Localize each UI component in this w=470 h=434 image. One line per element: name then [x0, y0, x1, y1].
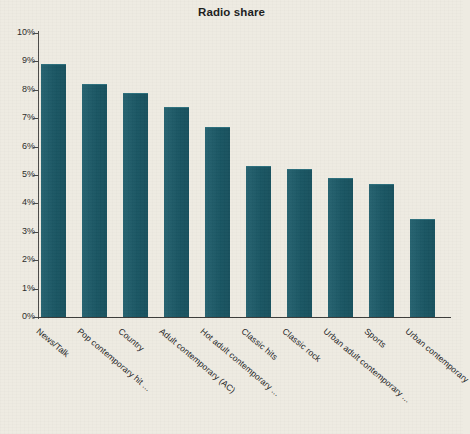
x-axis-category-label: Classic hits — [239, 326, 279, 362]
bar-shading — [328, 179, 353, 317]
bar — [328, 178, 353, 317]
y-axis-tick-label: 5% — [22, 169, 35, 179]
x-axis-line — [38, 317, 451, 318]
y-axis-tick-label: 7% — [22, 112, 35, 122]
bar-shading — [41, 65, 66, 317]
y-axis-tick-label: 0% — [22, 311, 35, 321]
y-axis-tick-label: 2% — [22, 254, 35, 264]
y-axis-tick-label: 4% — [22, 197, 35, 207]
bar-shading — [164, 108, 189, 317]
bar — [41, 64, 66, 317]
bar — [164, 107, 189, 317]
chart-title: Radio share — [0, 6, 463, 18]
y-axis-tick-label: 8% — [22, 84, 35, 94]
y-axis-line — [38, 31, 39, 319]
bar-shading — [287, 170, 312, 317]
x-axis-category-label: Sports — [362, 326, 388, 350]
x-axis-category-label: News/Talk — [34, 326, 71, 359]
bar — [246, 166, 271, 317]
y-axis-tick-label: 9% — [22, 55, 35, 65]
bar — [410, 219, 435, 317]
y-axis-tick-label: 3% — [22, 226, 35, 236]
x-axis-category-label: Classic rock — [280, 326, 322, 364]
bar-shading — [205, 128, 230, 317]
y-axis-tick-label: 10% — [17, 27, 35, 37]
x-axis-labels: News/TalkPop contemporary hit ...Country… — [0, 322, 463, 434]
bar — [82, 84, 107, 317]
x-axis-category-label: Pop contemporary hit ... — [75, 326, 152, 393]
bar — [123, 93, 148, 317]
x-axis-category-label: Hot adult contemporary ... — [198, 326, 281, 398]
plot-area — [38, 33, 450, 317]
y-axis-tick-label: 6% — [22, 141, 35, 151]
y-axis-tick-label: 1% — [22, 283, 35, 293]
bar-shading — [410, 220, 435, 317]
x-axis-category-label: Country — [116, 326, 146, 353]
bar — [205, 127, 230, 317]
bar-shading — [82, 85, 107, 317]
bar-shading — [123, 94, 148, 317]
x-axis-category-label: Adult contemporary (AC) — [157, 326, 237, 395]
bar-shading — [246, 167, 271, 317]
x-axis-category-label: Urban contemporary — [403, 326, 470, 385]
bar — [369, 184, 394, 317]
bar-shading — [369, 185, 394, 317]
bar — [287, 169, 312, 317]
